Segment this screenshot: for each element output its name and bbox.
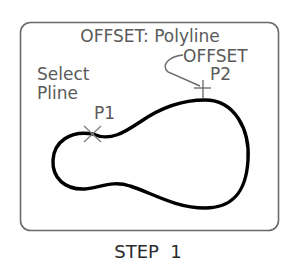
offset-polyline-diagram: OFFSET: Polyline Select Pline P1 OFFSET … <box>0 0 291 268</box>
polyline-shape <box>53 100 248 208</box>
step-caption: STEP 1 <box>114 241 182 262</box>
select-label: Select <box>37 64 90 84</box>
cross-mark-icon <box>194 80 211 98</box>
offset-label: OFFSET <box>183 46 248 66</box>
p2-label: P2 <box>210 64 231 84</box>
pline-label: Pline <box>37 83 78 103</box>
diagram-title: OFFSET: Polyline <box>80 26 219 46</box>
p1-label: P1 <box>94 103 115 123</box>
